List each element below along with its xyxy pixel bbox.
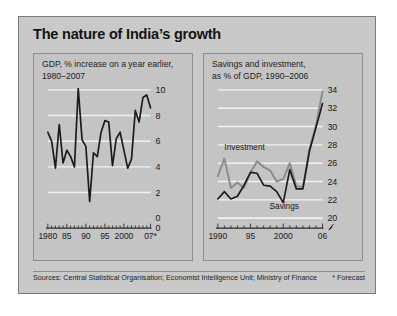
footer-divider bbox=[33, 271, 365, 272]
series-line-investment bbox=[218, 92, 323, 188]
y-axis-tick-label: 2 bbox=[155, 188, 160, 198]
series-label-savings: Savings bbox=[270, 201, 299, 211]
y-axis-tick-label: 32 bbox=[327, 103, 337, 113]
y-axis-tick-label: 26 bbox=[327, 158, 337, 168]
chart-panel-gdp: GDP, % increase on a year earlier, 1980–… bbox=[33, 53, 193, 261]
y-axis-tick-label: 34 bbox=[327, 85, 337, 95]
x-axis-tick-label: 85 bbox=[62, 231, 72, 241]
x-axis-tick-label: 2000 bbox=[274, 231, 293, 241]
axis-break-symbol bbox=[328, 224, 333, 230]
y-axis-tick-label: 24 bbox=[327, 177, 337, 187]
y-axis-tick-label: 10 bbox=[155, 85, 165, 95]
x-axis-tick-label: 90 bbox=[81, 231, 91, 241]
chart-panel-savings-investment: Savings and investment, as % of GDP, 199… bbox=[203, 53, 363, 261]
x-axis-tick-label: 95 bbox=[246, 231, 256, 241]
series-line-savings bbox=[218, 104, 323, 203]
y-axis-tick-label: 0 bbox=[155, 213, 160, 223]
x-axis-zero-label: 0 bbox=[155, 223, 160, 233]
gdp-growth-chart: 02468101980859095200007*0 bbox=[34, 54, 192, 260]
forecast-note: * Forecast bbox=[332, 273, 365, 282]
y-axis-tick-label: 8 bbox=[155, 111, 160, 121]
sources-text: Sources: Central Statistical Organisatio… bbox=[33, 273, 317, 282]
y-axis-tick-label: 30 bbox=[327, 122, 337, 132]
x-axis-tick-label: 1980 bbox=[38, 231, 57, 241]
series-label-investment: Investment bbox=[224, 142, 265, 152]
series-line-gdp-growth bbox=[48, 89, 151, 202]
figure-footer: Sources: Central Statistical Organisatio… bbox=[33, 273, 365, 287]
y-axis-tick-label: 20 bbox=[327, 213, 337, 223]
figure-container: The nature of India’s growth GDP, % incr… bbox=[18, 16, 376, 294]
x-axis-tick-label: 95 bbox=[100, 231, 110, 241]
y-axis-tick-label: 4 bbox=[155, 162, 160, 172]
x-axis-tick-label: 1990 bbox=[208, 231, 227, 241]
x-axis-tick-label: 2000 bbox=[114, 231, 133, 241]
y-axis-tick-label: 28 bbox=[327, 140, 337, 150]
y-axis-tick-label: 22 bbox=[327, 195, 337, 205]
savings-investment-chart: 2022242628303234199095200006InvestmentSa… bbox=[204, 54, 362, 260]
x-axis-tick-label: 06 bbox=[318, 231, 328, 241]
figure-title: The nature of India’s growth bbox=[33, 26, 221, 42]
y-axis-tick-label: 6 bbox=[155, 136, 160, 146]
